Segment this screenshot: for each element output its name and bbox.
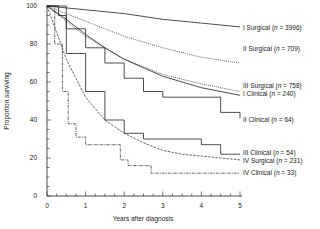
x-tick-label: 0 xyxy=(45,202,49,209)
label-ii-surgical: II Surgical (n = 709) xyxy=(243,45,300,53)
y-tick-label: 80 xyxy=(30,40,38,47)
x-tick-label: 1 xyxy=(84,202,88,209)
x-tick-label: 3 xyxy=(161,202,165,209)
label-iv-surgical: IV Surgical (n = 231) xyxy=(243,157,302,165)
survival-curves xyxy=(47,6,240,173)
y-tick-label: 40 xyxy=(30,116,38,123)
y-axis-title: Proportion surviving xyxy=(3,72,11,130)
curve-ii-clinical xyxy=(47,6,240,118)
label-i-clinical: I Clinical (n = 240) xyxy=(243,90,296,98)
curve-i-surgical xyxy=(47,6,240,27)
label-i-surgical: I Surgical (n = 3996) xyxy=(243,24,302,32)
y-tick-label: 100 xyxy=(26,2,37,9)
label-iii-clinical: III Clinical (n = 54) xyxy=(243,149,296,157)
x-tick-label: 5 xyxy=(238,202,242,209)
label-iv-clinical: IV Clinical (n = 33) xyxy=(243,169,296,177)
x-tick-label: 4 xyxy=(200,202,204,209)
y-tick-label: 0 xyxy=(33,192,37,199)
x-axis-ticks: 012345 xyxy=(45,192,242,210)
survival-chart: 020406080100 012345 Proportion surviving… xyxy=(0,0,320,229)
label-ii-clinical: II Clinical (n = 64) xyxy=(243,116,294,124)
x-axis-title: Years after diagnosis xyxy=(113,215,174,223)
x-tick-label: 2 xyxy=(122,202,126,209)
y-tick-label: 60 xyxy=(30,78,38,85)
curve-labels: I Surgical (n = 3996)II Surgical (n = 70… xyxy=(243,24,302,177)
label-iii-surgical: III Surgical (n = 758) xyxy=(243,82,302,90)
curve-ii-surgical xyxy=(47,6,240,63)
y-tick-label: 20 xyxy=(30,154,38,161)
